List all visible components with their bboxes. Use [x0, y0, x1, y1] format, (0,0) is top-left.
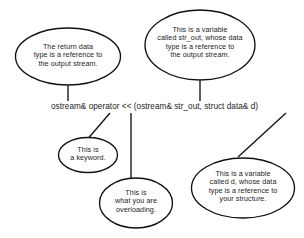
- callout-ellipse-return-type: [16, 28, 121, 85]
- callout-ellipse-keyword: [59, 138, 118, 173]
- callout-ellipse-overloading: [100, 178, 173, 228]
- diagram-canvas: The return data type is a reference to t…: [0, 0, 304, 238]
- callout-ellipse-str-out-param: [145, 10, 255, 80]
- diagram-vector-layer: [0, 0, 304, 238]
- connector-keyword: [89, 113, 111, 138]
- code-signature: ostream& operator << (ostream& str_out, …: [51, 102, 258, 111]
- connector-data-param: [238, 113, 286, 157]
- callout-ellipse-data-param: [192, 158, 295, 218]
